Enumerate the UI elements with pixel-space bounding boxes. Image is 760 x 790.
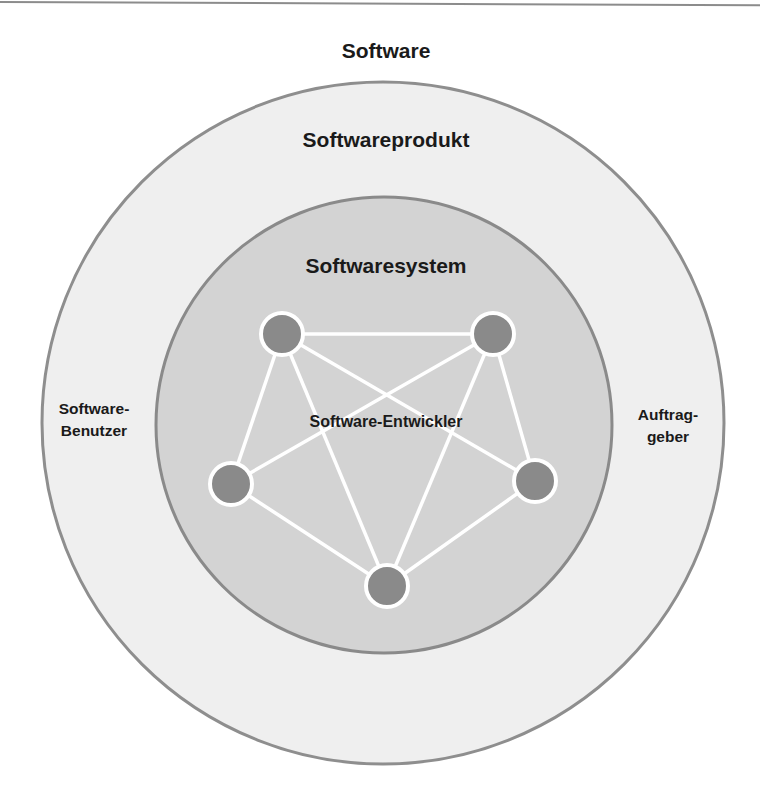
label-software-benutzer-line1: Software- <box>38 398 150 420</box>
label-auftraggeber-line1: Auftrag- <box>620 404 716 426</box>
diagram-title-software: Software <box>286 39 486 63</box>
label-software-entwickler: Software-Entwickler <box>256 413 516 431</box>
developer-node <box>210 463 252 505</box>
label-software-benutzer-line2: Benutzer <box>38 420 150 442</box>
label-softwaresystem: Softwaresystem <box>266 254 506 278</box>
developer-node <box>366 565 408 607</box>
label-softwareprodukt: Softwareprodukt <box>256 128 516 152</box>
developer-node <box>472 313 514 355</box>
developer-node <box>514 460 556 502</box>
developer-node <box>261 313 303 355</box>
label-auftraggeber-line2: geber <box>620 426 716 448</box>
software-context-diagram <box>0 0 760 790</box>
label-auftraggeber: Auftrag- geber <box>620 404 716 448</box>
label-software-benutzer: Software- Benutzer <box>38 398 150 442</box>
